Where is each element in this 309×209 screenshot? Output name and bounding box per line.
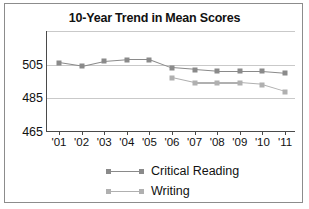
chart-frame: 10-Year Trend in Mean Scores 465485505 '… (4, 3, 303, 203)
data-point-marker (147, 57, 152, 62)
data-point-marker (215, 69, 220, 74)
data-point-marker (170, 76, 175, 81)
x-axis-tick (195, 131, 196, 135)
x-axis-tick (172, 131, 173, 135)
data-point-marker (170, 66, 175, 71)
x-axis-tick (262, 131, 263, 135)
x-axis-tick-label: '10 (255, 136, 270, 148)
x-axis-tick (59, 131, 60, 135)
legend-label: Critical Reading (151, 164, 239, 178)
x-axis-tick (149, 131, 150, 135)
x-axis-tick-label: '07 (187, 136, 202, 148)
y-axis-tick-label: 485 (22, 91, 43, 105)
data-point-marker (215, 81, 220, 86)
x-axis-tick-label: '02 (74, 136, 89, 148)
data-point-marker (57, 60, 62, 65)
plot-area: '01'02'03'04'05'06'07'08'09'10'11 (46, 31, 295, 132)
x-axis-tick (240, 131, 241, 135)
x-axis-tick-label: '04 (119, 136, 134, 148)
data-point-marker (124, 57, 129, 62)
legend-line-icon (106, 189, 144, 194)
data-point-marker (260, 82, 265, 87)
legend-label: Writing (151, 184, 190, 198)
x-axis-tick-label: '01 (52, 136, 67, 148)
x-axis-line (46, 131, 295, 132)
data-point-marker (192, 81, 197, 86)
data-point-marker (79, 64, 84, 69)
data-point-marker (283, 89, 288, 94)
x-axis-tick (285, 131, 286, 135)
data-point-marker (192, 67, 197, 72)
data-point-marker (237, 69, 242, 74)
x-axis-tick (217, 131, 218, 135)
y-axis-line (46, 31, 47, 132)
x-axis-tick-label: '08 (210, 136, 225, 148)
legend-item[interactable]: Critical Reading (106, 164, 239, 178)
x-axis-tick-label: '11 (278, 136, 292, 148)
data-point-marker (260, 69, 265, 74)
data-point-marker (283, 71, 288, 76)
data-point-marker (102, 59, 107, 64)
x-axis-tick-label: '03 (97, 136, 112, 148)
y-axis-labels: 465485505 (5, 31, 43, 132)
x-axis-tick-label: '06 (165, 136, 180, 148)
data-point-marker (237, 81, 242, 86)
legend-line-icon (106, 169, 144, 174)
x-axis-tick (82, 131, 83, 135)
legend-item[interactable]: Writing (106, 184, 190, 198)
x-axis-tick (104, 131, 105, 135)
chart-title: 10-Year Trend in Mean Scores (5, 11, 304, 25)
gridline (46, 98, 295, 99)
y-axis-tick-label: 505 (22, 58, 43, 72)
gridline (46, 31, 295, 32)
x-axis-tick-label: '09 (232, 136, 247, 148)
x-axis-tick-label: '05 (142, 136, 157, 148)
y-axis-tick-label: 465 (22, 125, 43, 139)
x-axis-tick (127, 131, 128, 135)
